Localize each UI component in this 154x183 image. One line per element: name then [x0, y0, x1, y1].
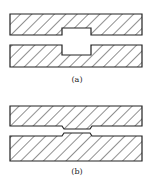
figure-a-label: (a) — [0, 75, 154, 84]
figure-b-label: (b) — [0, 167, 154, 176]
upper-wall-a — [10, 14, 142, 35]
lower-wall-a — [10, 45, 142, 67]
diagram — [0, 0, 154, 183]
upper-wall-b — [10, 106, 142, 129]
figure-a — [10, 14, 142, 67]
figure-b — [10, 106, 142, 161]
lower-wall-b — [10, 133, 142, 161]
